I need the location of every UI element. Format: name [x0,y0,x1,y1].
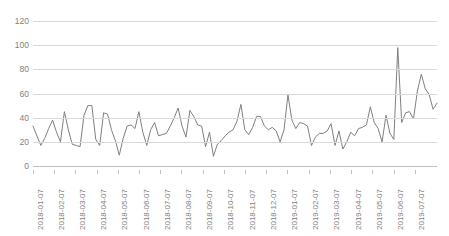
x-tick-mark [415,170,416,174]
x-tick-mark [224,170,225,174]
x-tick-label-2019-01-07: 2019-01-07 [291,189,299,230]
x-tick-mark [245,170,246,174]
x-tick-label-2019-05-07: 2019-05-07 [376,189,384,230]
gridline-120 [33,21,437,22]
gridline-100 [33,45,437,46]
x-tick-mark [394,170,395,174]
x-tick-label-2019-02-07: 2019-02-07 [312,189,320,230]
x-tick-label-2018-02-07: 2018-02-07 [58,189,66,230]
gridline-40 [33,118,437,119]
plot-area [33,21,437,166]
x-tick-mark [372,170,373,174]
x-tick-label-2019-07-07: 2019-07-07 [418,189,426,230]
y-axis-labels: 020406080100120 [0,0,29,166]
x-tick-label-2019-04-07: 2019-04-07 [355,189,363,230]
x-tick-mark [139,170,140,174]
x-tick-mark [160,170,161,174]
x-tick-label-2018-05-07: 2018-05-07 [121,189,129,230]
x-tick-mark [97,170,98,174]
y-tick-label-120: 120 [3,17,29,26]
x-tick-mark [181,170,182,174]
y-tick-label-80: 80 [3,65,29,74]
x-tick-label-2018-01-07: 2018-01-07 [37,189,45,230]
x-axis-labels: 2018-01-072018-02-072018-03-072018-04-07… [0,170,449,236]
x-tick-label-2018-11-07: 2018-11-07 [249,190,257,230]
x-tick-label-2018-07-07: 2018-07-07 [164,189,172,230]
x-tick-mark [287,170,288,174]
x-tick-mark [75,170,76,174]
gridline-60 [33,94,437,95]
y-tick-label-40: 40 [3,114,29,123]
x-tick-label-2018-09-07: 2018-09-07 [206,189,214,230]
line-chart: 020406080100120 2018-01-072018-02-072018… [0,0,449,236]
x-tick-label-2018-06-07: 2018-06-07 [143,189,151,230]
y-tick-label-60: 60 [3,90,29,99]
series-path [33,48,437,157]
x-tick-label-2018-10-07: 2018-10-07 [227,189,235,230]
gridline-80 [33,69,437,70]
x-tick-mark [330,170,331,174]
x-tick-label-2018-03-07: 2018-03-07 [79,189,87,230]
x-axis-line [33,166,437,167]
x-tick-label-2018-04-07: 2018-04-07 [100,189,108,230]
x-tick-mark [54,170,55,174]
y-tick-label-100: 100 [3,41,29,50]
x-tick-mark [309,170,310,174]
x-tick-label-2019-06-07: 2019-06-07 [397,189,405,230]
y-tick-label-20: 20 [3,138,29,147]
x-tick-mark [118,170,119,174]
x-tick-mark [33,170,34,174]
gridline-20 [33,142,437,143]
x-tick-mark [351,170,352,174]
x-tick-label-2018-08-07: 2018-08-07 [185,189,193,230]
x-tick-label-2019-03-07: 2019-03-07 [333,189,341,230]
x-tick-mark [203,170,204,174]
x-tick-mark [266,170,267,174]
x-tick-label-2018-12-07: 2018-12-07 [270,189,278,230]
